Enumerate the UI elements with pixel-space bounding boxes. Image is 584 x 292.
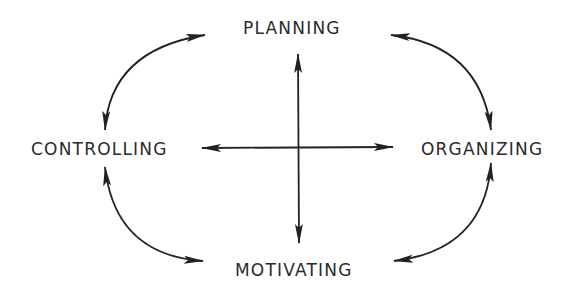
curved-arrow-planning-organizing (391, 35, 491, 130)
curved-arrow-controlling-planning (105, 35, 205, 130)
vertical-double-arrow (298, 54, 299, 243)
horizontal-double-arrow (202, 147, 393, 148)
node-controlling: CONTROLLING (31, 141, 168, 158)
node-organizing: ORGANIZING (421, 141, 543, 158)
curved-arrow-organizing-motivating (394, 163, 491, 261)
curved-arrow-motivating-controlling (105, 167, 203, 261)
node-planning: PLANNING (243, 20, 341, 37)
management-cycle-diagram: PLANNING ORGANIZING CONTROLLING MOTIVATI… (0, 0, 584, 292)
node-motivating: MOTIVATING (235, 262, 353, 279)
